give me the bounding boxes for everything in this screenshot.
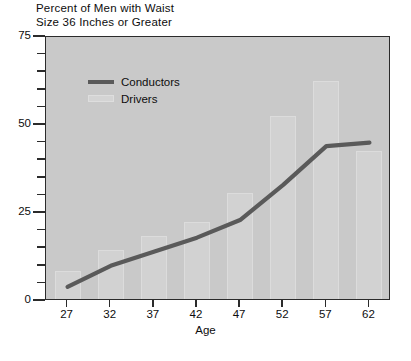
x-axis-label: 32 [90, 308, 130, 320]
x-tick [368, 300, 370, 307]
legend-label-drivers: Drivers [121, 93, 157, 105]
x-tick [325, 300, 327, 307]
y-tick-minor [37, 158, 45, 160]
y-axis-label: 25 [0, 205, 31, 217]
x-tick [281, 300, 283, 307]
x-axis-title: Age [0, 324, 411, 336]
y-tick-major [33, 299, 45, 301]
x-axis-label: 52 [262, 308, 302, 320]
x-axis-label: 62 [348, 308, 388, 320]
y-axis-label: 50 [0, 117, 31, 129]
y-tick-major [33, 211, 45, 213]
x-axis-label: 47 [219, 308, 259, 320]
x-tick [109, 300, 111, 307]
y-tick-minor [37, 229, 45, 231]
legend-bar-swatch-icon [88, 95, 114, 102]
conductors-line [68, 143, 370, 287]
y-axis-label: 75 [0, 29, 31, 41]
x-tick [152, 300, 154, 307]
x-axis-label: 57 [305, 308, 345, 320]
x-axis-label: 37 [133, 308, 173, 320]
y-tick-minor [37, 246, 45, 248]
legend-label-conductors: Conductors [121, 76, 180, 88]
x-tick [195, 300, 197, 307]
figure: Percent of Men with Waist Size 36 Inches… [0, 0, 411, 361]
y-tick-major [33, 35, 45, 37]
x-axis-label: 27 [47, 308, 87, 320]
x-axis-label: 42 [176, 308, 216, 320]
y-tick-minor [37, 264, 45, 266]
y-tick-minor [37, 176, 45, 178]
legend-item-conductors: Conductors [88, 73, 180, 90]
legend-item-drivers: Drivers [88, 90, 180, 107]
legend-line-swatch-icon [88, 80, 114, 84]
y-tick-minor [37, 194, 45, 196]
y-tick-minor [37, 88, 45, 90]
y-tick-minor [37, 70, 45, 72]
y-tick-minor [37, 141, 45, 143]
y-tick-major [33, 123, 45, 125]
x-tick [238, 300, 240, 307]
y-tick-minor [37, 53, 45, 55]
y-axis-labels: 0255075 [0, 0, 31, 361]
y-tick-minor [37, 282, 45, 284]
x-tick [66, 300, 68, 307]
chart-legend: Conductors Drivers [88, 73, 180, 107]
y-axis-label: 0 [0, 293, 31, 305]
y-tick-minor [37, 106, 45, 108]
chart-title: Percent of Men with Waist Size 36 Inches… [36, 1, 174, 29]
